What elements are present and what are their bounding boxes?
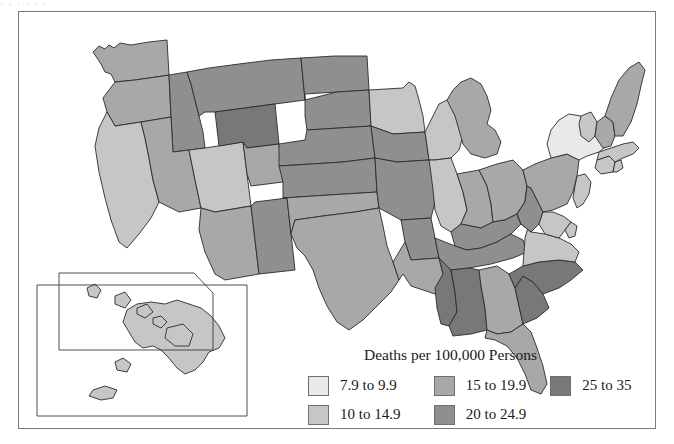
state-sd[interactable]: South Dakota — 20 to 24.9 (305, 90, 371, 130)
legend-title: Deaths per 100,000 Persons (364, 346, 537, 364)
legend-item-4: 25 to 35 (550, 376, 653, 396)
legend-item-3: 20 to 24.9 (434, 405, 550, 425)
state-mt[interactable]: Montana — 20 to 24.9 (187, 58, 305, 116)
state-ak[interactable]: Alaska — 10 to 14.9 (89, 386, 117, 400)
state-mn[interactable]: Minnesota — 10 to 14.9 (369, 82, 425, 134)
legend-row: 10 to 14.9 20 to 24.9 (308, 400, 653, 429)
legend-item-1: 10 to 14.9 (308, 405, 434, 425)
state-az[interactable]: Arizona — 15 to 19.9 (199, 206, 259, 280)
cut-off-text-above: · · · · · · (0, 0, 674, 9)
state-hi[interactable]: Hawaii — 10 to 14.9 (87, 284, 101, 298)
legend-label-3: 20 to 24.9 (466, 406, 526, 423)
legend-swatch-0 (308, 376, 329, 396)
figure-page: · · · · · · Washington — 15 to 19.9Orego… (0, 0, 674, 444)
map-figure-frame: Washington — 15 to 19.9Oregon — 15 to 19… (18, 11, 656, 429)
legend-grid: 7.9 to 9.9 15 to 19.9 25 to 35 10 to 14.… (308, 371, 653, 429)
legend-label-4: 25 to 35 (582, 377, 631, 394)
state-hi[interactable]: Hawaii — 10 to 14.9 (115, 292, 131, 308)
legend-swatch-4 (550, 376, 571, 396)
state-ak[interactable]: Alaska — 10 to 14.9 (115, 358, 131, 372)
map-legend: Deaths per 100,000 Persons 7.9 to 9.9 15… (308, 346, 653, 426)
state-il[interactable]: Illinois — 10 to 14.9 (429, 158, 467, 232)
legend-swatch-3 (434, 405, 455, 425)
legend-item-2: 15 to 19.9 (434, 376, 550, 396)
legend-swatch-1 (308, 405, 329, 425)
legend-label-1: 10 to 14.9 (340, 406, 400, 423)
state-wy[interactable]: Wyoming — 25 to 35 (215, 104, 279, 148)
legend-item-0: 7.9 to 9.9 (308, 376, 434, 396)
state-tx[interactable]: Texas — 15 to 19.9 (291, 208, 399, 330)
legend-row: 7.9 to 9.9 15 to 19.9 25 to 35 (308, 371, 653, 400)
legend-swatch-2 (434, 376, 455, 396)
state-mo[interactable]: Missouri — 20 to 24.9 (375, 158, 439, 220)
legend-label-2: 15 to 19.9 (466, 377, 526, 394)
state-wa[interactable]: Washington — 15 to 19.9 (93, 40, 169, 82)
state-co[interactable]: Colorado — 15 to 19.9 (243, 142, 283, 186)
legend-label-0: 7.9 to 9.9 (340, 377, 397, 394)
